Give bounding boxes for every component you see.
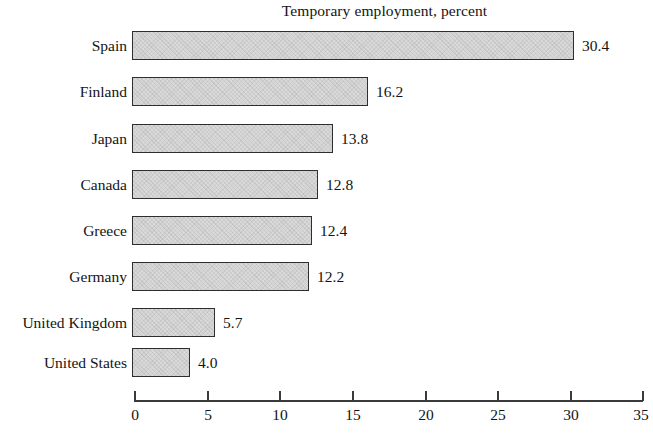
axis-tick-label: 25 [468,406,528,424]
category-label: Greece [83,222,127,240]
axis-tick [134,391,136,401]
bar-chart: Temporary employment, percent Spain 30.4… [0,0,653,440]
bar-row: United Kingdom 5.7 [0,308,653,338]
bar [132,170,318,199]
category-label: Germany [69,268,127,286]
bar [132,262,309,291]
category-label: United States [44,354,127,372]
category-label: Finland [80,83,127,101]
axis-tick [425,391,427,401]
bar-row: Canada 12.8 [0,170,653,200]
value-label: 30.4 [582,37,609,55]
bar-row: Finland 16.2 [0,77,653,107]
axis-tick [642,391,644,401]
value-label: 5.7 [223,314,242,332]
bar [132,31,574,60]
bar [132,124,333,153]
value-label: 13.8 [341,130,368,148]
category-label: Spain [92,37,127,55]
bar-row: Japan 13.8 [0,124,653,154]
bar [132,348,190,377]
bar-row: United States 4.0 [0,348,653,378]
category-label: United Kingdom [22,314,127,332]
bar [132,216,312,245]
axis-tick-label: 15 [323,406,383,424]
axis-tick-label: 30 [541,406,601,424]
axis-tick [570,391,572,401]
value-label: 12.2 [317,268,344,286]
bar-row: Germany 12.2 [0,262,653,292]
value-label: 12.8 [326,176,353,194]
bar-row: Greece 12.4 [0,216,653,246]
axis-tick [352,391,354,401]
axis-tick [497,391,499,401]
axis-line [134,400,643,402]
axis-tick-label: 0 [105,406,165,424]
value-label: 12.4 [320,222,347,240]
x-axis: 0 5 10 15 20 25 30 35 [0,390,653,440]
bar-row: Spain 30.4 [0,31,653,61]
axis-tick-label: 5 [178,406,238,424]
axis-tick [279,391,281,401]
bar [132,308,215,337]
axis-tick-label: 10 [250,406,310,424]
value-label: 16.2 [376,83,403,101]
axis-tick-label: 35 [611,406,653,424]
category-label: Canada [81,176,127,194]
axis-tick [207,391,209,401]
category-label: Japan [92,130,127,148]
bar [132,77,368,106]
value-label: 4.0 [198,354,217,372]
axis-tick-label: 20 [396,406,456,424]
plot-area: Spain 30.4 Finland 16.2 Japan 13.8 Canad… [0,0,653,440]
